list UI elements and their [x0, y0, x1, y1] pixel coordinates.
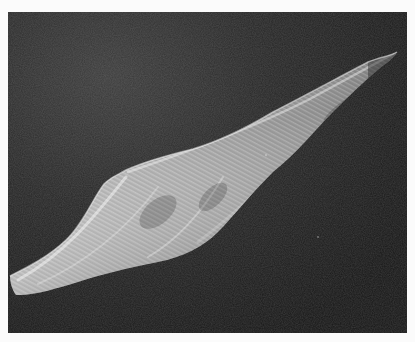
micrograph-image — [8, 12, 407, 333]
micrograph-frame — [8, 12, 407, 333]
